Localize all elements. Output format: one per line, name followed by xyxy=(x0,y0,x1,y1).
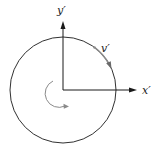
x-axis-label: x′ xyxy=(142,85,151,96)
rotation-arrowhead-icon xyxy=(64,104,70,109)
y-axis-label: y′ xyxy=(57,5,66,16)
x-axis-arrowhead-icon xyxy=(129,88,137,93)
y-axis-arrowhead-icon xyxy=(61,21,66,29)
velocity-arrowhead-icon xyxy=(106,61,111,69)
rotating-frame-diagram: y′ x′ v′ xyxy=(0,0,160,152)
rotation-arc xyxy=(45,81,65,107)
velocity-label: v′ xyxy=(101,43,110,54)
velocity-tail-dot xyxy=(93,46,95,48)
